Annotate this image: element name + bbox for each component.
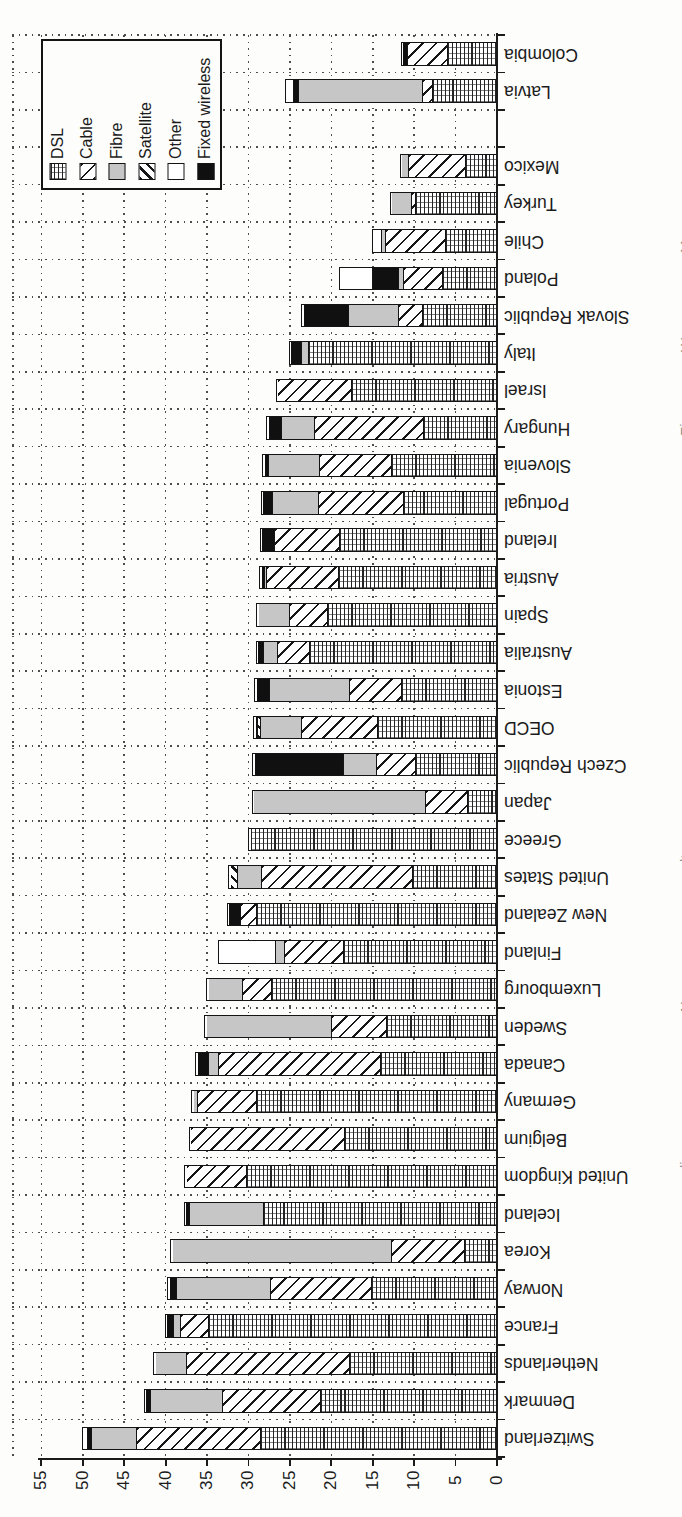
category-tick [497,857,505,859]
category-tick [497,72,505,74]
category-tick [497,1344,505,1346]
bar-row [167,1277,497,1301]
segment-dsl [466,155,496,177]
segment-dsl [264,1203,496,1225]
segment-fibre [276,941,285,963]
category-tick [497,221,505,223]
value-tick [248,1458,250,1466]
legend: DSLCableFibreSatelliteOtherFixed wireles… [41,39,222,190]
segment-fibre [156,1353,187,1375]
country-label: Slovak Republic [504,305,629,326]
segment-fibre [402,155,409,177]
segment-cable [278,380,352,402]
category-tick [497,708,505,710]
segment-dsl [251,829,496,851]
bar-row [401,42,497,66]
segment-cable [319,492,404,514]
segment-cable [320,455,392,477]
category-tick [497,970,505,972]
segment-cable [275,529,340,551]
segment-dsl [310,642,496,664]
bar-row [372,229,497,253]
category-axis-line [496,33,498,1462]
country-label: Netherlands [504,1353,598,1374]
segment-fibre [344,754,376,776]
category-tick [497,1044,505,1046]
bar-row [184,1202,497,1226]
edge-fragment: N [677,1001,682,1012]
edge-fragment: . [677,1473,682,1477]
segment-dsl [392,455,496,477]
country-label: Estonia [504,679,562,700]
bar-row [218,940,497,964]
segment-dsl [446,230,496,252]
country-label: Norway [504,1278,563,1299]
category-gridline [12,1232,497,1234]
value-tick-label: 50 [73,1470,93,1490]
category-tick [497,1082,505,1084]
category-tick [497,146,505,148]
category-tick [497,109,505,111]
segment-cable [377,754,416,776]
category-tick [497,633,505,635]
segment-dsl [247,1166,496,1188]
segment-dsl [344,941,496,963]
segment-dsl [345,1128,496,1150]
scanned-rotated-bar-chart: ColombiaLatviaMexicoTurkeyChilePolandSlo… [0,0,682,1517]
segment-cable [267,567,339,589]
category-tick [497,184,505,186]
segment-fibre [269,455,320,477]
category-tick [497,1306,505,1308]
category-gridline [12,1419,497,1421]
segment-cable [187,1166,247,1188]
segment-fibre [92,1428,137,1450]
segment-dsl [404,492,496,514]
segment-fibre [264,642,278,664]
country-label: Portugal [504,492,569,513]
legend-swatch-fibre [109,163,126,180]
country-label: Austria [504,567,558,588]
value-gridline [41,35,43,1458]
segment-dsl [381,1053,496,1075]
category-tick [497,558,505,560]
category-gridline [12,1381,497,1383]
segment-dsl [321,1390,496,1412]
legend-label: DSL [49,128,67,159]
segment-satellite [231,866,238,888]
segment-dsl [416,193,496,215]
segment-fixed_wireless [373,268,399,290]
segment-fibre [173,1240,392,1262]
bar-row [260,528,497,552]
segment-dsl [465,1240,496,1262]
segment-fibre [299,80,423,102]
segment-cable [426,791,467,813]
category-gridline [12,1119,497,1121]
category-gridline [12,446,497,448]
category-tick [497,932,505,934]
edge-fragment: li [677,1161,682,1168]
segment-cable [198,1091,257,1113]
value-tick [289,1458,291,1466]
legend-label: Satellite [137,102,155,159]
category-tick [497,483,505,485]
category-gridline [12,895,497,897]
country-label: United Kingdom [504,1166,629,1187]
segment-fibre [190,1203,264,1225]
category-tick [497,595,505,597]
country-label: France [504,1315,558,1336]
bar-row [289,341,497,365]
category-tick [497,1119,505,1121]
segment-dsl [350,1353,496,1375]
category-gridline [12,1269,497,1271]
category-tick [497,895,505,897]
country-label: Slovenia [504,455,571,476]
segment-fibre [151,1390,223,1412]
bar-row [266,416,497,440]
segment-cable [262,866,413,888]
category-gridline [12,408,497,410]
segment-fixed_wireless [167,1315,174,1337]
category-gridline [12,783,497,785]
segment-fibre [177,1278,271,1300]
legend-label: Other [167,119,185,159]
bar-row [400,154,497,178]
